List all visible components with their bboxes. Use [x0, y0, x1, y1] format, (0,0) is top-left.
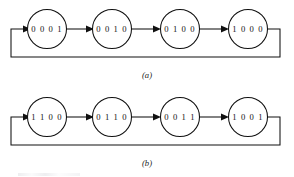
diagram-a-state-label-3: 0 1 0 0: [164, 24, 195, 34]
diagram-a-group: 0 0 0 1 0 0 1 0 0 1 0 0 1 0 0 0 (a): [11, 10, 280, 81]
state-diagram-svg: 0 0 0 1 0 0 1 0 0 1 0 0 1 0 0 0 (a): [0, 0, 294, 177]
diagram-b-arrowhead-3-4: [221, 114, 229, 121]
diagram-a-arrowhead-3-4: [221, 26, 229, 33]
diagram-b-state-label-1: 1 1 0 0: [31, 112, 62, 122]
diagram-a-state-label-4: 1 0 0 0: [232, 24, 263, 34]
figure-container: 0 0 0 1 0 0 1 0 0 1 0 0 1 0 0 0 (a): [0, 0, 294, 177]
diagram-a-arrowhead-2-3: [153, 26, 161, 33]
diagram-b-state-label-2: 0 1 1 0: [96, 112, 127, 122]
diagram-b-arrowhead-2-3: [153, 114, 161, 121]
diagram-a-state-label-1: 0 0 0 1: [31, 24, 62, 34]
diagram-b-group: 1 1 0 0 0 1 1 0 0 0 1 1 1 0 0 1 (b): [11, 98, 280, 169]
page-edge-artifact: [18, 173, 80, 176]
diagram-b-caption: (b): [142, 158, 152, 168]
diagram-a-caption: (a): [142, 70, 152, 80]
diagram-b-state-label-4: 1 0 0 1: [232, 112, 263, 122]
diagram-a-state-label-2: 0 0 1 0: [96, 24, 127, 34]
diagram-b-state-label-3: 0 0 1 1: [164, 112, 195, 122]
